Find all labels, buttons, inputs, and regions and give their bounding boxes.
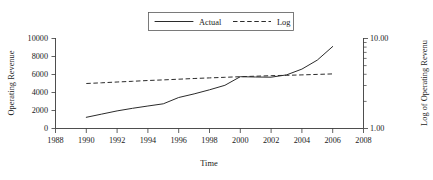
x-axis-title: Time bbox=[200, 159, 218, 168]
y-tick-label-10000: 10000 bbox=[28, 34, 48, 43]
y-tick-label-2000: 2000 bbox=[32, 106, 48, 115]
y-axis-right-title: Log of Operating Revenu bbox=[420, 39, 429, 126]
x-axis: 1988 1990 1992 1994 1996 1998 2000 2002 … bbox=[47, 129, 371, 169]
y-tick-label-8000: 8000 bbox=[32, 52, 48, 61]
x-tick-label-2002: 2002 bbox=[263, 136, 279, 145]
y2-tick-label-10: 10.00 bbox=[370, 34, 388, 43]
chart-svg: Actual Log 0 2000 4000 6000 8000 10000 O… bbox=[0, 0, 433, 180]
x-tick-label-1992: 1992 bbox=[109, 136, 125, 145]
x-tick-label-2006: 2006 bbox=[325, 136, 341, 145]
x-tick-label-1990: 1990 bbox=[78, 136, 94, 145]
x-tick-label-1998: 1998 bbox=[201, 136, 217, 145]
y-tick-label-4000: 4000 bbox=[32, 88, 48, 97]
y2-tick-label-1: 1.00 bbox=[370, 124, 384, 133]
series-line-log bbox=[86, 74, 332, 84]
y-axis-left-title: Operating Revenue bbox=[7, 50, 16, 115]
legend-label-actual: Actual bbox=[199, 18, 222, 27]
chart-figure: Actual Log 0 2000 4000 6000 8000 10000 O… bbox=[0, 0, 433, 180]
chart-plot-area bbox=[86, 47, 332, 118]
chart-legend: Actual Log bbox=[149, 13, 294, 31]
y-tick-label-0: 0 bbox=[44, 124, 48, 133]
y-axis-right: 1.00 10.00 Log of Operating Revenu bbox=[364, 34, 430, 133]
y-axis-left: 0 2000 4000 6000 8000 10000 Operating Re… bbox=[7, 34, 56, 133]
x-tick-label-1994: 1994 bbox=[140, 136, 156, 145]
x-tick-label-1996: 1996 bbox=[171, 136, 187, 145]
x-tick-label-2008: 2008 bbox=[355, 136, 371, 145]
x-tick-label-2004: 2004 bbox=[294, 136, 310, 145]
x-tick-label-1988: 1988 bbox=[47, 136, 63, 145]
x-tick-label-2000: 2000 bbox=[232, 136, 248, 145]
legend-label-log: Log bbox=[277, 18, 291, 27]
y-tick-label-6000: 6000 bbox=[32, 70, 48, 79]
